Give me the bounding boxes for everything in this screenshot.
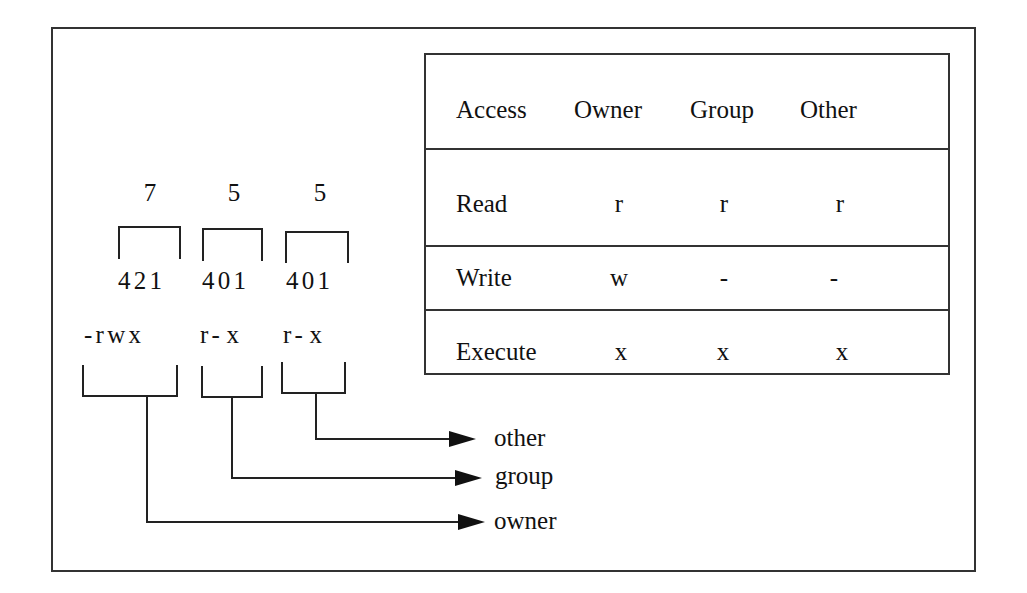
bottom-bracket-group — [202, 366, 262, 397]
arrow-label-other: other — [494, 425, 545, 450]
bottom-bracket-other — [282, 362, 345, 393]
arrowhead-group-icon — [455, 470, 482, 486]
bottom-bracket-owner — [83, 365, 177, 396]
arrow-label-owner: owner — [494, 508, 556, 533]
top-bracket-other — [286, 232, 348, 263]
connector-lines — [0, 0, 1027, 593]
arrowhead-other-icon — [449, 431, 476, 447]
top-bracket-group — [203, 229, 262, 261]
top-bracket-owner — [119, 227, 180, 259]
arrow-label-group: group — [495, 463, 553, 488]
connector-other — [316, 394, 450, 439]
arrowhead-owner-icon — [458, 514, 485, 530]
connector-owner — [147, 397, 459, 522]
